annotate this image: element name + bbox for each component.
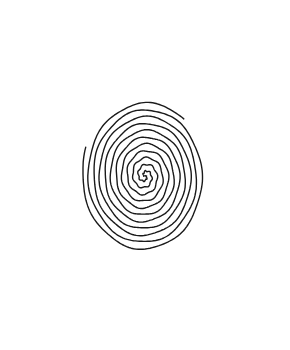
spiral-drawing (0, 0, 290, 350)
